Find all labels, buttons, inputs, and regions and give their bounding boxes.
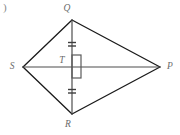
vertex-label-s: S	[10, 61, 15, 71]
edge-r-s	[23, 67, 72, 114]
vertex-label-p: P	[166, 61, 173, 71]
corner-paren-mark: )	[3, 1, 7, 14]
edge-q-p	[72, 20, 160, 67]
vertex-label-t: T	[59, 55, 65, 65]
vertex-label-q: Q	[64, 3, 71, 13]
edge-p-r	[72, 67, 160, 114]
geometry-figure-canvas: Q S P R T )	[0, 0, 180, 135]
kite-diagram: Q S P R T )	[0, 0, 180, 135]
vertex-label-r: R	[64, 119, 71, 129]
